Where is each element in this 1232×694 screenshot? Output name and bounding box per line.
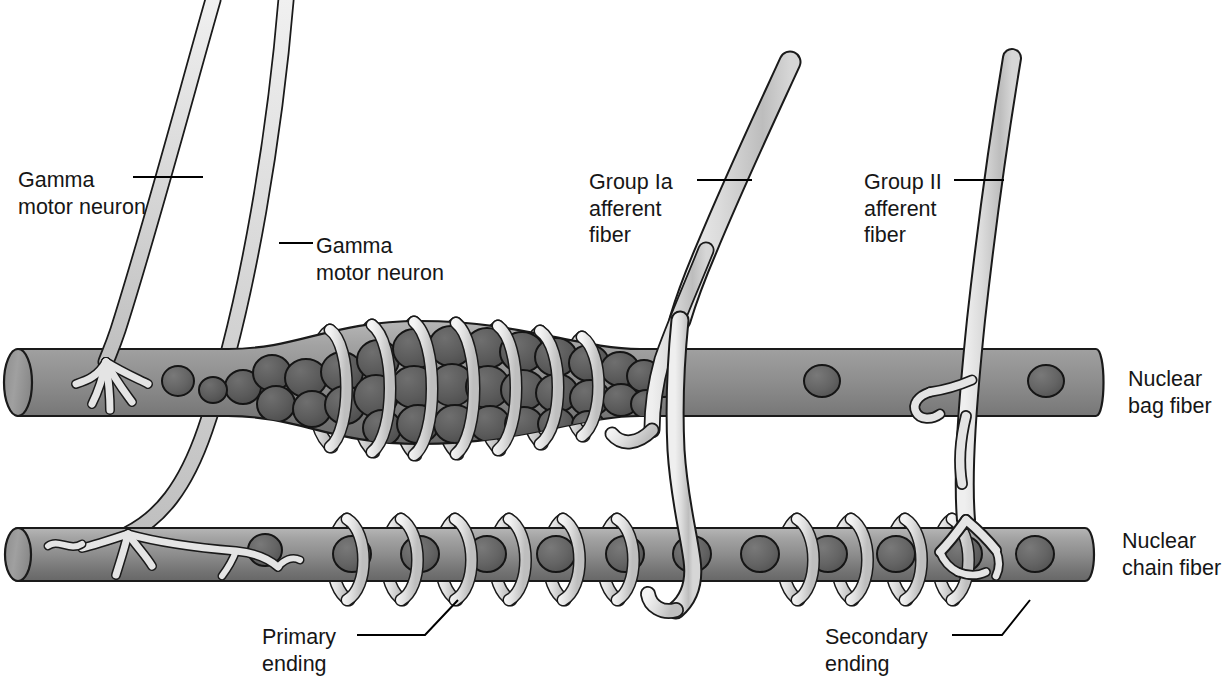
label-group-ii-afferent-fiber: Group IIafferentfiber: [864, 169, 942, 249]
leader-primary: [357, 600, 458, 635]
chain-fiber-left-cap: [5, 528, 31, 581]
label-secondary-ending: Secondaryending: [825, 624, 928, 677]
label-nuclear-bag-fiber: Nuclearbag fiber: [1128, 366, 1212, 419]
muscle-spindle-diagram: [0, 0, 1232, 694]
leader-secondary: [952, 600, 1030, 635]
nuclear-chain-fiber: [5, 528, 1094, 581]
label-group-ia-afferent-fiber: Group Iaafferentfiber: [589, 169, 673, 249]
figure-canvas: Gammamotor neuron Gammamotor neuron Grou…: [0, 0, 1232, 694]
bag-fiber-left-cap: [4, 349, 32, 416]
label-gamma-motor-neuron-2: Gammamotor neuron: [316, 233, 444, 286]
label-gamma-motor-neuron-1: Gammamotor neuron: [18, 167, 146, 220]
label-nuclear-chain-fiber: Nuclearchain fiber: [1122, 528, 1221, 581]
gamma-motor-neuron-2-upper: [128, 0, 286, 534]
label-primary-ending: Primaryending: [262, 624, 336, 677]
group-ii-afferent-fiber: [915, 58, 1012, 576]
